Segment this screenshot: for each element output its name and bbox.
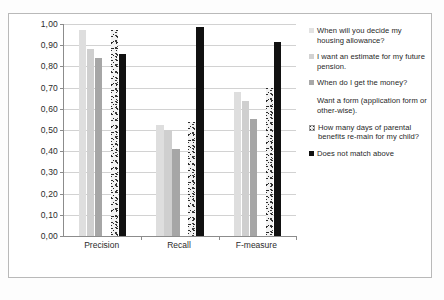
bar-group (219, 24, 296, 236)
bar (172, 149, 179, 236)
legend-swatch-icon (309, 125, 315, 131)
y-axis-tick-label: 0,90 (41, 40, 58, 50)
bars-layer (64, 24, 296, 236)
y-axis-tick-mark (60, 215, 64, 216)
chart-frame: 1,000,900,800,700,600,500,400,300,200,10… (8, 13, 432, 278)
legend-item[interactable]: When do I get the money? (309, 78, 427, 89)
x-axis-labels: PrecisionRecallF-measure (63, 240, 295, 256)
y-axis-tick-label: 0,50 (41, 125, 58, 135)
bar (196, 27, 203, 236)
axis-area (63, 24, 296, 237)
bar (87, 49, 94, 236)
legend-swatch-icon (309, 28, 314, 33)
legend-swatch-icon (309, 151, 314, 156)
y-axis-tick-label: 0,20 (41, 189, 58, 199)
bar (156, 125, 163, 236)
plot-area: 1,000,900,800,700,600,500,400,300,200,10… (27, 24, 299, 264)
x-axis-tick-label: Precision (84, 240, 119, 250)
y-axis-tick-mark (60, 109, 64, 110)
legend-swatch-icon (309, 80, 314, 85)
y-axis-tick-label: 0,70 (41, 83, 58, 93)
legend-item-label: How many days of parental benefits re-ma… (318, 123, 427, 142)
y-axis-tick-mark (60, 151, 64, 152)
y-axis-labels: 1,000,900,800,700,600,500,400,300,200,10… (27, 24, 61, 236)
legend-swatch-icon (309, 98, 314, 103)
bar-group (64, 24, 141, 236)
y-axis-tick-mark (60, 45, 64, 46)
y-axis-tick-mark (60, 194, 64, 195)
bar (234, 92, 241, 236)
y-axis-tick-label: 1,00 (41, 19, 58, 29)
bar (119, 54, 126, 236)
y-axis-tick-label: 0,00 (41, 231, 58, 241)
y-axis-tick-label: 0,60 (41, 104, 58, 114)
y-axis-tick-mark (60, 88, 64, 89)
bar (242, 101, 249, 236)
bar (95, 58, 102, 236)
bar (266, 88, 273, 236)
legend-swatch-icon (309, 54, 314, 59)
legend-item-label: Does not match above (317, 149, 394, 159)
bar (79, 30, 86, 236)
legend-item[interactable]: Want a form (application form or other-w… (309, 96, 427, 115)
y-axis-tick-label: 0,40 (41, 146, 58, 156)
legend-item-label: I want an estimate for my future pension… (317, 52, 427, 71)
legend-item[interactable]: Does not match above (309, 149, 427, 160)
y-axis-tick-mark (60, 130, 64, 131)
y-axis-tick-mark (60, 172, 64, 173)
bar (250, 119, 257, 236)
x-axis-tick-label: F-measure (236, 240, 277, 250)
legend-item[interactable]: When will you decide my housing allowanc… (309, 26, 427, 45)
bar (111, 30, 118, 236)
y-axis-tick-mark (60, 66, 64, 67)
chart-legend: When will you decide my housing allowanc… (309, 26, 427, 167)
legend-item[interactable]: I want an estimate for my future pension… (309, 52, 427, 71)
bar (164, 130, 171, 236)
y-axis-tick-mark (60, 236, 64, 237)
legend-item-label: Want a form (application form or other-w… (317, 96, 427, 115)
legend-item-label: When do I get the money? (317, 78, 407, 88)
y-axis-tick-label: 0,80 (41, 61, 58, 71)
y-axis-tick-mark (60, 24, 64, 25)
x-axis-tick-mark (296, 236, 297, 240)
y-axis-tick-label: 0,30 (41, 167, 58, 177)
y-axis-tick-label: 0,10 (41, 210, 58, 220)
x-axis-tick-label: Recall (167, 240, 191, 250)
legend-item-label: When will you decide my housing allowanc… (317, 26, 427, 45)
legend-item[interactable]: How many days of parental benefits re-ma… (309, 123, 427, 142)
bar-group (141, 24, 218, 236)
bar (188, 122, 195, 236)
bar (274, 42, 281, 236)
